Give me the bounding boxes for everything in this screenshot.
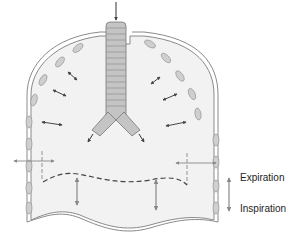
legend-inspiration-label: Inspiration <box>240 203 286 214</box>
legend-expiration-label: Expiration <box>240 172 284 183</box>
